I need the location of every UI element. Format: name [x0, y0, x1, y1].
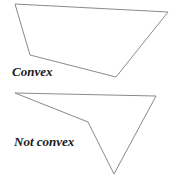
polygon-diagram	[0, 0, 176, 186]
not-convex-label: Not convex	[14, 134, 74, 150]
convex-label: Convex	[12, 64, 52, 80]
